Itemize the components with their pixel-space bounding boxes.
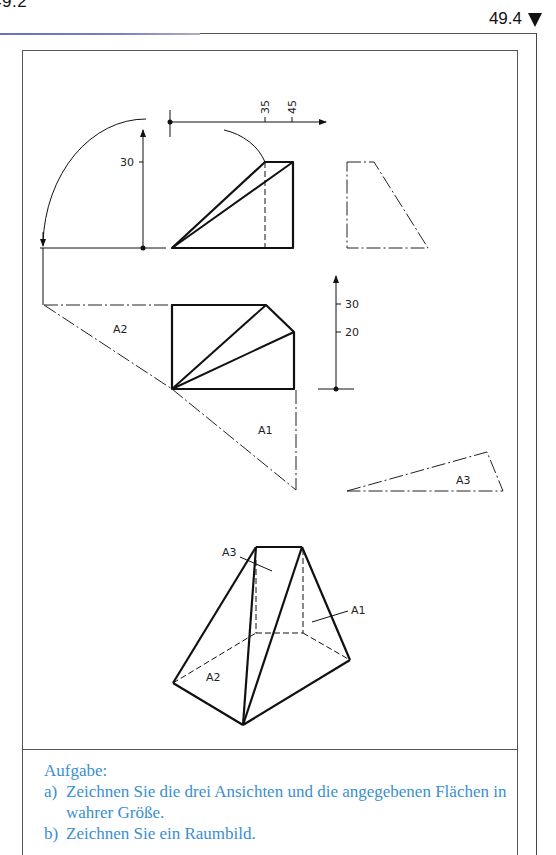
iso-label-a3: A3	[222, 546, 237, 559]
task-title: Aufgabe:	[44, 760, 514, 781]
technical-drawing: 35 45 30 A2 A1 30 20	[0, 0, 556, 750]
dimension-label-35: 35	[259, 100, 272, 114]
task-item-marker: b)	[44, 823, 66, 844]
surface-label-a1: A1	[258, 424, 273, 437]
front-view	[172, 162, 293, 248]
top-view	[172, 305, 294, 389]
surface-label-a3: A3	[456, 474, 471, 487]
surface-label-a2: A2	[113, 323, 128, 336]
iso-label-a2: A2	[206, 671, 221, 684]
task-item-text: Zeichnen Sie ein Raumbild.	[66, 823, 514, 844]
iso-label-a1: A1	[351, 604, 366, 617]
projection-construction	[40, 119, 265, 305]
true-size-surface-a3	[347, 452, 503, 491]
dimension-label-20-top: 20	[345, 326, 359, 339]
task-item-text: Zeichnen Sie die drei Ansichten und die …	[66, 781, 514, 823]
isometric-view	[173, 547, 350, 725]
true-size-construction	[44, 305, 296, 490]
height-label-30: 30	[120, 156, 134, 169]
vertical-dimension-axis-front	[139, 130, 146, 251]
task-item-marker: a)	[44, 781, 66, 823]
horizontal-dimension-axis	[168, 110, 327, 137]
task-divider	[22, 749, 518, 750]
task-item-b: b) Zeichnen Sie ein Raumbild.	[44, 823, 514, 844]
dimension-label-45: 45	[286, 100, 299, 114]
task-section: Aufgabe: a) Zeichnen Sie die drei Ansich…	[44, 760, 514, 844]
task-item-a: a) Zeichnen Sie die drei Ansichten und d…	[44, 781, 514, 823]
dimension-label-30-top: 30	[345, 298, 359, 311]
side-view	[347, 162, 428, 248]
